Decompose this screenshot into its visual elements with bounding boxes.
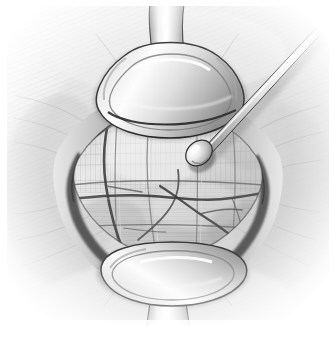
surgical-illustration-figure: Operative field exposed between two self… xyxy=(0,0,336,338)
left-margin xyxy=(0,0,7,338)
right-margin xyxy=(329,0,336,338)
top-margin xyxy=(0,0,336,6)
plate-vignette xyxy=(6,4,330,326)
bottom-margin xyxy=(0,320,336,338)
illustration-plate xyxy=(2,4,336,338)
illustration-canvas xyxy=(0,0,336,338)
